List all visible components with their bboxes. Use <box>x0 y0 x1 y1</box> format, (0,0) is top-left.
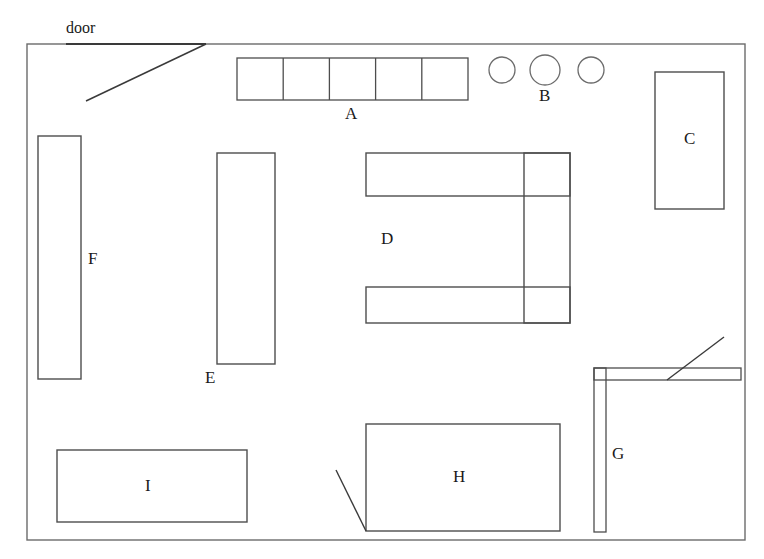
fixture-G-door-swing-line <box>667 337 724 380</box>
fixture-D-bottom-arm <box>366 287 570 323</box>
fixture-label-C: C <box>684 130 695 147</box>
fixture-G[interactable] <box>594 337 741 532</box>
door-group <box>66 44 206 101</box>
fixture-label-H: H <box>453 468 465 485</box>
fixture-F-rect <box>38 136 81 379</box>
fixture-label-B: B <box>539 87 550 104</box>
floor-plan-canvas: door A B C D E F G H I <box>0 0 764 559</box>
fixture-F[interactable] <box>38 136 81 379</box>
fixture-B-circle-1 <box>489 57 515 83</box>
fixture-label-G: G <box>612 445 624 462</box>
fixture-G-vertical-bar <box>594 368 606 532</box>
fixture-B[interactable] <box>489 55 604 85</box>
fixture-A-outline <box>237 58 468 100</box>
outer-wall-group <box>27 44 745 540</box>
door-swing-line <box>86 44 206 101</box>
fixture-I[interactable] <box>57 450 247 522</box>
fixture-A[interactable] <box>237 58 468 100</box>
fixture-E-rect <box>217 153 275 364</box>
fixture-I-rect <box>57 450 247 522</box>
fixture-D[interactable] <box>366 153 570 323</box>
fixture-H-door-swing-line <box>336 470 366 531</box>
fixture-D-top-arm <box>366 153 570 196</box>
fixture-label-I: I <box>145 477 151 494</box>
fixture-B-circle-3 <box>578 57 604 83</box>
fixture-B-circle-2 <box>530 55 560 85</box>
fixture-label-A: A <box>345 105 357 122</box>
fixture-H[interactable] <box>336 424 560 531</box>
floor-plan-drawing <box>0 0 764 559</box>
outer-wall-rect <box>27 44 745 540</box>
door-label: door <box>66 20 95 36</box>
fixture-label-E: E <box>205 369 215 386</box>
fixture-label-D: D <box>381 230 393 247</box>
fixture-D-right-spine <box>524 153 570 323</box>
fixture-G-horizontal-bar <box>594 368 741 380</box>
fixture-E[interactable] <box>217 153 275 364</box>
fixture-label-F: F <box>88 250 97 267</box>
